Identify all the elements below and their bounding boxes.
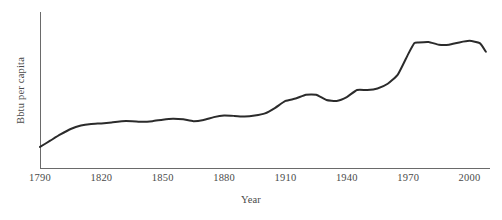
x-tick-label: 1940 <box>336 172 358 183</box>
x-tick-label: 2000 <box>459 172 481 183</box>
line-chart: Bbtu per capita 179018201850188019101940… <box>0 0 502 220</box>
data-series-line <box>40 41 486 147</box>
x-tick-label: 1880 <box>213 172 235 183</box>
chart-plot-svg <box>0 0 502 220</box>
x-tick-label: 1820 <box>90 172 112 183</box>
x-tick-label: 1790 <box>29 172 51 183</box>
x-tick-label: 1970 <box>397 172 419 183</box>
x-tick-label: 1910 <box>275 172 297 183</box>
y-axis-title: Bbtu per capita <box>16 56 27 123</box>
x-axis-title: Year <box>0 194 502 205</box>
x-tick-label: 1850 <box>152 172 174 183</box>
y-axis-title-wrap: Bbtu per capita <box>12 12 30 168</box>
